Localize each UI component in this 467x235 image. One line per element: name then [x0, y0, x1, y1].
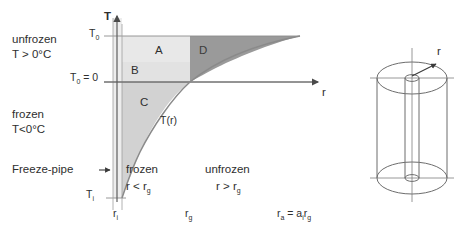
- label-frozen-top: frozen: [12, 108, 44, 121]
- label-frozen-temp: T<0°C: [12, 123, 45, 136]
- label-unfrozen-temp: T > 0°C: [12, 48, 51, 61]
- tick-label-t0-top-sub: 0: [95, 34, 99, 41]
- tick-label-ra: ra = airg: [277, 208, 311, 222]
- tick-label-ri: ri: [113, 208, 118, 222]
- tick-label-ti-sub: i: [92, 195, 94, 202]
- figure-root: unfrozen T > 0°C frozen T<0°C Freeze-pip…: [0, 0, 467, 235]
- zone-cond-frozen-main: r < r: [126, 180, 147, 192]
- label-freeze-pipe: Freeze-pipe: [12, 163, 73, 176]
- diagram-canvas: [0, 0, 467, 235]
- tick-label-rg-sub: g: [189, 214, 193, 221]
- tick-label-ti: Ti: [86, 189, 94, 203]
- region-label-b: B: [131, 64, 139, 77]
- zone-cond-unfrozen: r > rg: [216, 180, 241, 195]
- radius-arrow: [412, 64, 436, 76]
- zone-cond-unfrozen-main: r > r: [216, 180, 237, 192]
- zone-cond-frozen-sub: g: [147, 187, 151, 194]
- zone-cond-frozen: r < rg: [126, 180, 151, 195]
- axis-label-t: T: [104, 10, 111, 23]
- tick-label-rg: rg: [185, 208, 192, 222]
- label-unfrozen-top: unfrozen: [12, 33, 57, 46]
- region-d-shape: [190, 36, 300, 82]
- tick-label-t0-top: T0: [89, 28, 99, 42]
- cylinder-radius-label: r: [437, 45, 441, 58]
- region-label-a: A: [155, 44, 163, 57]
- cylinder-group: [370, 48, 454, 202]
- zone-cond-unfrozen-sub: g: [237, 187, 241, 194]
- zone-label-unfrozen: unfrozen: [205, 163, 250, 176]
- tick-label-t0-zero: T0 = 0: [70, 72, 98, 86]
- axis-label-r: r: [322, 86, 326, 99]
- region-label-c: C: [140, 96, 148, 109]
- region-label-d: D: [199, 44, 207, 57]
- tick-label-ri-sub: i: [117, 214, 119, 221]
- tick-label-t0-zero-value: = 0: [80, 71, 98, 83]
- curve-label-tr: T(r): [160, 115, 177, 127]
- zone-label-frozen: frozen: [126, 163, 158, 176]
- tick-label-ra-eq: = a: [284, 207, 302, 219]
- tick-label-ra-rg-sub: g: [307, 214, 311, 221]
